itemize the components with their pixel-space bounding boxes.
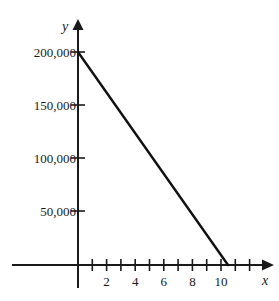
y-tick-label-200000: 200,000 (34, 46, 76, 59)
x-axis-arrow-icon (262, 260, 274, 271)
x-tick-label-2: 2 (103, 275, 110, 288)
data-series-line (78, 52, 228, 265)
y-axis-arrow-icon (73, 19, 84, 30)
x-axis-label: x (262, 274, 268, 288)
y-tick-label-150000: 150,000 (34, 99, 76, 112)
x-tick-label-8: 8 (189, 275, 196, 288)
y-tick-label-50000: 50,000 (40, 205, 76, 218)
x-tick-label-4: 4 (132, 275, 139, 288)
chart-container: 200,000 150,000 100,000 50,000 2 4 6 8 1… (0, 0, 279, 301)
x-tick-label-6: 6 (161, 275, 168, 288)
x-tick-label-10: 10 (215, 275, 228, 288)
y-tick-label-100000: 100,000 (34, 152, 76, 165)
y-axis-label: y (62, 20, 68, 34)
